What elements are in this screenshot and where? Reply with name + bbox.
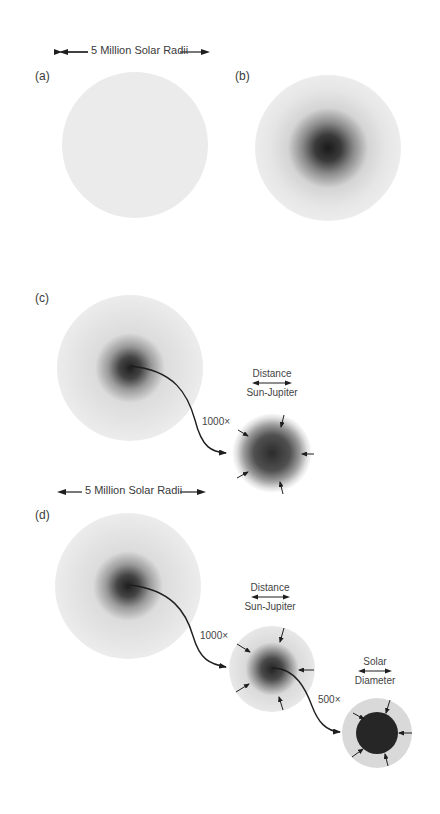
cloud-d: [55, 513, 201, 659]
panel-label-a: (a): [35, 69, 50, 83]
panel-label-c: (c): [35, 291, 49, 305]
scale-bar-top-label: 5 Million Solar Radii: [91, 44, 188, 56]
figure-canvas: [0, 0, 440, 814]
magnification-c: 1000×: [202, 416, 230, 427]
fragment-d: [229, 626, 315, 712]
diameter-arrow-d: [358, 669, 392, 674]
distance-arrow-d: [251, 595, 290, 600]
distance-caption-bottom-d: Sun-Jupiter: [238, 601, 302, 612]
solar-caption-top-d: Solar: [355, 656, 395, 667]
panel-label-d: (d): [35, 508, 50, 522]
solar-caption-bottom-d: Diameter: [348, 675, 402, 686]
distance-arrow-c: [252, 381, 292, 386]
scale-bar-middle-label: 5 Million Solar Radii: [85, 484, 182, 496]
cloud-c: [57, 295, 203, 441]
distance-caption-top-d: Distance: [246, 582, 294, 593]
magnification-d2: 500×: [318, 694, 341, 705]
distance-caption-bottom-c: Sun-Jupiter: [240, 387, 304, 398]
cloud-b: [255, 75, 401, 221]
cloud-a: [62, 72, 208, 218]
distance-caption-top-c: Distance: [248, 368, 296, 379]
fragment-c: [232, 413, 312, 493]
magnification-d1: 1000×: [200, 630, 228, 641]
panel-label-b: (b): [235, 69, 250, 83]
